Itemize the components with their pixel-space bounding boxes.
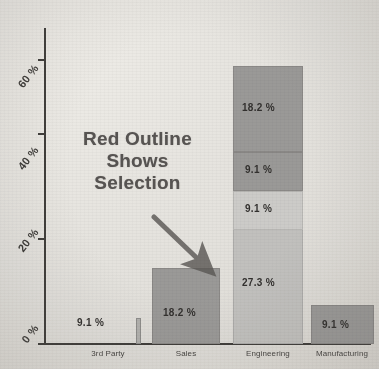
- bar-label-engineering-18-2: 18.2 %: [242, 102, 275, 113]
- x-tick-label-manufacturing: Manufacturing: [316, 349, 368, 358]
- annotation-line-3: Selection: [55, 172, 220, 194]
- bar-3rd-party[interactable]: [136, 318, 141, 344]
- y-tick-label-60: 60 %: [10, 62, 40, 96]
- bar-label-manufacturing: 9.1 %: [322, 319, 349, 330]
- y-tick-mark-40: [38, 133, 45, 135]
- y-tick-label-40: 40 %: [10, 144, 40, 178]
- annotation-line-2: Shows: [55, 150, 220, 172]
- bar-label-engineering-9-1-upper: 9.1 %: [245, 164, 272, 175]
- y-tick-mark-20: [38, 238, 45, 240]
- bar-label-sales: 18.2 %: [163, 307, 196, 318]
- selection-annotation-text: Red Outline Shows Selection: [55, 128, 220, 194]
- x-tick-label-sales: Sales: [176, 349, 197, 358]
- y-tick-label-20: 20 %: [10, 226, 40, 260]
- y-axis-line: [44, 28, 46, 344]
- chart-page: 0 % 20 % 40 % 60 % 9.1 % 18.2 % 27.3 % 9…: [0, 0, 379, 369]
- y-tick-label-0: 0 %: [10, 322, 40, 356]
- bar-label-engineering-27-3: 27.3 %: [242, 277, 275, 288]
- y-tick-mark-60: [38, 59, 45, 61]
- bar-sales[interactable]: [152, 268, 220, 344]
- bar-chart-plot-area[interactable]: 0 % 20 % 40 % 60 % 9.1 % 18.2 % 27.3 % 9…: [0, 0, 379, 369]
- x-tick-label-3rd-party: 3rd Party: [91, 349, 124, 358]
- y-tick-mark-0: [38, 343, 45, 345]
- bar-label-3rd-party: 9.1 %: [77, 317, 104, 328]
- bar-label-engineering-9-1-lower: 9.1 %: [245, 203, 272, 214]
- x-tick-label-engineering: Engineering: [246, 349, 290, 358]
- annotation-line-1: Red Outline: [55, 128, 220, 150]
